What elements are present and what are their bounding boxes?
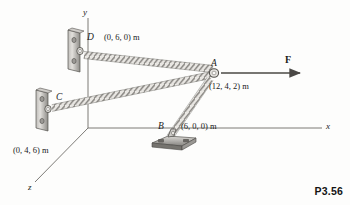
support-bracket-d [68,28,84,72]
force-label-f: F [285,55,291,65]
point-coords-b: (6, 0, 0) m [181,122,217,131]
point-coords-a: (12, 4, 2) m [209,82,249,91]
figure-caption: P3.56 [315,185,343,197]
axis-label-x: x [326,122,330,131]
diagram-canvas [0,0,350,205]
point-label-c: C [56,93,62,103]
cable-d-a [84,51,213,72]
point-label-b: B [158,122,164,132]
support-bracket-c [36,88,52,131]
point-coords-c: (0, 4, 6) m [13,146,49,155]
axis-z-line [35,128,88,182]
cable-c-a [52,72,211,112]
figure-p3-56: y x z D (0, 6, 0) m C (0, 4, 6) m B (6, … [0,0,350,205]
point-label-d: D [87,33,94,43]
ring-joint-a [209,69,218,77]
axis-label-z: z [28,183,32,192]
point-coords-d: (0, 6, 0) m [104,33,140,42]
axis-label-y: y [83,8,87,17]
support-base-plate-b [152,129,196,150]
point-label-a: A [211,59,217,69]
